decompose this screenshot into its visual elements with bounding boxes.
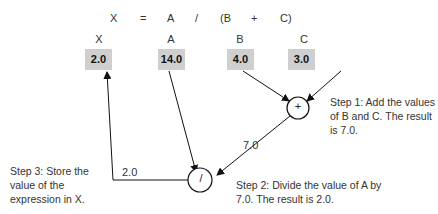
- divide-operator: /: [195, 172, 207, 184]
- step3-line3: expression in X.: [10, 192, 89, 206]
- step1-line3: is 7.0.: [330, 123, 435, 137]
- step3-line2: value of the: [10, 178, 89, 192]
- step1-line2: of B and C. The result: [330, 109, 435, 123]
- expression-token-b: (B: [220, 12, 231, 24]
- variable-value-c: 3.0: [288, 49, 315, 70]
- edge-label-quotient: 2.0: [122, 166, 137, 178]
- step1-line1: Step 1: Add the values: [330, 95, 435, 109]
- step2-note: Step 2: Divide the value of A by 7.0. Th…: [236, 178, 381, 206]
- step3-line1: Step 3: Store the: [10, 164, 89, 178]
- expression-token-equals: =: [140, 12, 146, 24]
- step2-line1: Step 2: Divide the value of A by: [236, 178, 381, 192]
- step2-line2: 7.0. The result is 2.0.: [236, 192, 381, 206]
- variable-label-c: C: [284, 33, 324, 45]
- variable-label-b: B: [220, 33, 260, 45]
- variable-value-b: 4.0: [227, 49, 254, 70]
- variable-label-x: X: [79, 33, 119, 45]
- variable-label-a: A: [151, 33, 191, 45]
- expression-token-x: X: [110, 12, 117, 24]
- expression-token-plus: +: [251, 12, 257, 24]
- step3-note: Step 3: Store the value of the expressio…: [10, 164, 89, 206]
- variable-value-a: 14.0: [158, 49, 185, 70]
- variable-value-x: 2.0: [85, 49, 112, 70]
- expression-token-divide: /: [195, 12, 198, 24]
- edge-label-sum: 7.0: [243, 139, 258, 151]
- expression-token-c: C): [280, 12, 292, 24]
- add-operator: +: [292, 100, 304, 112]
- step1-note: Step 1: Add the values of B and C. The r…: [330, 95, 435, 137]
- expression-token-a: A: [167, 12, 174, 24]
